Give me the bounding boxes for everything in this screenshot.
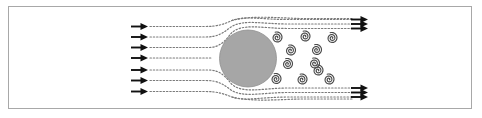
vortex-4: [313, 45, 322, 55]
vortex-1: [301, 31, 310, 41]
cylinder-group: [220, 30, 277, 87]
streamline-0: [150, 18, 352, 27]
vortex-8: [298, 74, 307, 84]
vortex-6: [311, 58, 320, 68]
flow-diagram: [0, 0, 482, 118]
circular-cylinder: [220, 30, 277, 87]
vortex-2: [328, 33, 337, 43]
vortices-group: [272, 31, 337, 84]
inlet-arrow-0-head: [141, 23, 149, 30]
vortex-5: [284, 59, 293, 69]
outlet-arrows-group: [351, 16, 368, 100]
vortex-9: [325, 74, 334, 84]
outlet-arrow-bottom-2-head: [361, 94, 369, 101]
inlet-arrow-6-head: [141, 88, 149, 95]
vortex-7: [272, 74, 281, 84]
vortex-3: [287, 45, 296, 55]
vortex-0: [273, 32, 282, 42]
inlet-arrow-4-head: [141, 67, 149, 74]
inlet-arrow-2-head: [141, 44, 149, 51]
inlet-arrows-group: [131, 23, 148, 95]
inlet-arrow-3-head: [141, 55, 149, 62]
outlet-arrow-top-2-head: [361, 25, 369, 32]
inlet-arrow-5-head: [141, 77, 149, 84]
figure-root: [0, 0, 482, 118]
inlet-arrow-1-head: [141, 34, 149, 41]
